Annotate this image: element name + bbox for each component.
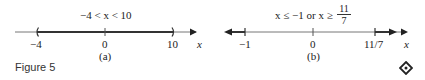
- axis-var-b: x: [404, 38, 409, 50]
- axis-var-a: x: [197, 38, 202, 50]
- panel-b-fraction: 11 7: [337, 3, 351, 26]
- figure-canvas: [0, 0, 425, 80]
- panel-b-title-prefix: x ≤ −1 or x ≥: [275, 9, 333, 21]
- tick-label-neg4: −4: [30, 38, 42, 50]
- tick-label-11-7: 11/7: [364, 38, 383, 50]
- panel-b-label: (b): [307, 50, 320, 62]
- tick-label-0-a: 0: [102, 38, 108, 50]
- arrow-right-icon: [190, 29, 197, 36]
- panel-a-title-text: −4 < x < 10: [80, 9, 132, 21]
- tick-label-10: 10: [167, 38, 178, 50]
- diamond-end-mark-icon: [399, 61, 413, 75]
- tick-label-0-b: 0: [310, 38, 316, 50]
- fraction-denominator: 7: [337, 15, 351, 26]
- number-line-a: [15, 28, 197, 37]
- number-line-b: [224, 28, 408, 36]
- arrow-left-icon: [224, 29, 232, 36]
- tick-label-neg1: −1: [239, 38, 251, 50]
- panel-a-label: (a): [99, 50, 111, 62]
- fraction-numerator: 11: [337, 3, 351, 15]
- arrow-right-solution-icon: [389, 29, 397, 36]
- figure-caption: Figure 5: [15, 61, 55, 73]
- panel-a-title: −4 < x < 10: [80, 9, 132, 21]
- panel-b-title: x ≤ −1 or x ≥: [275, 9, 333, 21]
- arrow-right-axis-icon: [401, 29, 408, 36]
